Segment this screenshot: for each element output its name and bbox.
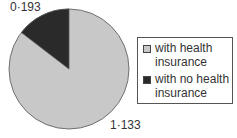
legend: with health insurance with no health ins… <box>137 37 233 104</box>
value-label-small: 0·193 <box>10 0 41 14</box>
legend-label-line1: with no health <box>155 72 229 86</box>
value-label-large: 1·133 <box>110 118 141 132</box>
legend-label-line2: insurance <box>155 55 207 69</box>
legend-swatch-dark <box>143 76 151 84</box>
legend-label-line2: insurance <box>155 86 207 100</box>
legend-swatch-light <box>143 45 151 53</box>
legend-label-line1: with health <box>155 41 212 55</box>
